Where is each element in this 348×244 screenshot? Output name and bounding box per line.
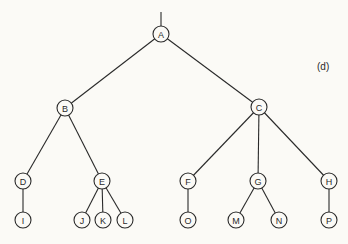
node-label: L — [122, 216, 127, 226]
edge-b-e — [65, 108, 102, 181]
node-p: P — [321, 212, 337, 228]
node-label: C — [256, 103, 263, 113]
node-label: N — [276, 216, 283, 226]
node-label: H — [326, 177, 333, 187]
edge-a-b — [65, 34, 161, 108]
node-label: E — [99, 177, 105, 187]
edge-c-h — [259, 107, 329, 181]
node-g: G — [250, 173, 266, 189]
node-o: O — [180, 212, 196, 228]
node-d: D — [15, 173, 31, 189]
node-n: N — [271, 212, 287, 228]
node-a: A — [153, 26, 169, 42]
node-f: F — [180, 173, 196, 189]
node-k: K — [95, 212, 111, 228]
node-label: O — [184, 216, 191, 226]
edge-b-d — [23, 108, 65, 181]
node-label: A — [158, 30, 164, 40]
tree-nodes: ABCDEFGHIJKLOMNP — [15, 26, 337, 228]
node-c: C — [251, 99, 267, 115]
node-label: M — [232, 216, 240, 226]
node-label: F — [185, 177, 191, 187]
node-label: D — [20, 177, 27, 187]
panel-label: (d) — [317, 61, 329, 72]
edge-c-f — [188, 107, 259, 181]
node-h: H — [321, 173, 337, 189]
tree-edges — [23, 12, 329, 220]
node-label: J — [80, 216, 85, 226]
edge-c-g — [258, 107, 259, 181]
node-label: I — [22, 216, 25, 226]
node-b: B — [57, 100, 73, 116]
node-label: B — [62, 104, 68, 114]
node-i: I — [15, 212, 31, 228]
edge-a-c — [161, 34, 259, 107]
node-label: P — [326, 216, 332, 226]
node-l: L — [117, 212, 133, 228]
node-label: G — [254, 177, 261, 187]
node-m: M — [228, 212, 244, 228]
node-label: K — [100, 216, 106, 226]
node-e: E — [94, 173, 110, 189]
node-j: J — [74, 212, 90, 228]
tree-diagram: ABCDEFGHIJKLOMNP — [0, 0, 348, 244]
